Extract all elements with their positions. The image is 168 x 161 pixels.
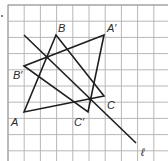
vertex-label: A′ (106, 22, 117, 34)
line-label: ℓ (140, 146, 145, 158)
vertex-label: C′ (74, 116, 85, 128)
vertex-label: A (10, 116, 18, 128)
vertex-label: B (58, 22, 65, 34)
vertex-label: C (107, 99, 115, 111)
grid (1, 5, 168, 161)
labels: ABCA′B′C′ℓ (10, 22, 145, 158)
reflection-diagram: ABCA′B′C′ℓ (0, 0, 168, 161)
vertex-label: B′ (13, 69, 23, 81)
intersection-dot (45, 55, 48, 58)
stray-mark (1, 15, 3, 17)
grid-border (8, 5, 168, 161)
intersection-dot (88, 97, 91, 100)
